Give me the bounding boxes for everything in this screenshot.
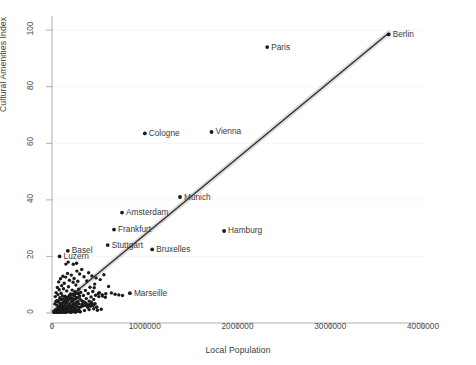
y-tick-label: 80 xyxy=(26,70,35,100)
y-axis-ticks xyxy=(46,30,52,313)
axis-lines xyxy=(52,16,423,323)
point-label-berlin: Berlin xyxy=(393,29,414,39)
point-label-cologne: Cologne xyxy=(149,128,180,138)
x-tick-label: 2000000 xyxy=(198,322,278,331)
x-tick-label: 4000000 xyxy=(383,322,463,331)
point-label-luzern: Luzern xyxy=(64,251,89,261)
gridlines xyxy=(52,30,423,256)
point-label-amsterdam: Amsterdam xyxy=(126,207,168,217)
point-label-vienna: Vienna xyxy=(216,126,242,136)
scatter-plot-figure: Cultural Amenities Index Local Populatio… xyxy=(0,0,476,365)
x-axis-title: Local Population xyxy=(0,345,476,355)
y-tick-label: 60 xyxy=(26,127,35,157)
point-label-stuttgart: Stuttgart xyxy=(112,240,143,250)
point-label-marseille: Marseille xyxy=(134,288,167,298)
y-tick-label: 40 xyxy=(26,183,35,213)
data-points-layer xyxy=(52,260,124,314)
x-tick-label: 1000000 xyxy=(105,322,185,331)
point-label-hamburg: Hamburg xyxy=(228,225,262,235)
point-label-paris: Paris xyxy=(271,42,290,52)
point-label-munich: Munich xyxy=(184,192,211,202)
regression-line xyxy=(52,33,389,312)
x-tick-label: 3000000 xyxy=(290,322,370,331)
x-tick-label: 0 xyxy=(12,322,92,331)
y-axis-title: Cultural Amenities Index xyxy=(0,0,8,112)
point-label-bruxelles: Bruxelles xyxy=(156,244,190,254)
y-tick-label: 100 xyxy=(26,14,35,44)
y-tick-label: 20 xyxy=(26,240,35,270)
point-label-frankfurt: Frankfurt xyxy=(118,224,151,234)
chart-canvas xyxy=(0,0,476,365)
